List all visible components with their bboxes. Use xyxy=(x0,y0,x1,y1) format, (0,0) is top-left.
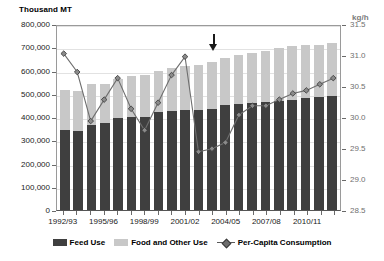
per-capita-data-point xyxy=(330,75,336,81)
chart-figure: Thousand MT kg/h 0100,000200,000300,0004… xyxy=(0,0,384,261)
per-capita-line-series xyxy=(57,26,340,210)
legend-swatch-feed-use xyxy=(53,239,67,246)
y-axis-right-tick-label: 31.5 xyxy=(350,20,366,29)
per-capita-data-point xyxy=(223,140,229,146)
legend-diamond-marker xyxy=(222,238,232,248)
y-axis-left-tick-label: 500,000 xyxy=(2,90,50,99)
x-axis-tick-mark xyxy=(76,211,77,215)
y-axis-right-tick-label: 29.5 xyxy=(350,144,366,153)
x-axis-tick-mark xyxy=(226,211,227,215)
per-capita-data-point xyxy=(290,91,296,97)
y-axis-left-tick-label: 700,000 xyxy=(2,43,50,52)
legend-item: Feed Use xyxy=(53,238,106,247)
y-axis-left-tick-label: 200,000 xyxy=(2,160,50,169)
y-axis-left-tick-label: 600,000 xyxy=(2,67,50,76)
x-axis-tick-mark xyxy=(199,211,200,215)
y-axis-left-tick-label: 400,000 xyxy=(2,113,50,122)
legend-swatch-food-and-other-use xyxy=(114,239,128,246)
x-axis-tick-mark xyxy=(266,211,267,215)
x-axis-tick-mark xyxy=(321,211,322,215)
per-capita-data-point xyxy=(128,106,134,112)
x-axis-tick-mark xyxy=(158,211,159,215)
y-axis-right-tick-mark xyxy=(342,149,346,150)
per-capita-data-point xyxy=(263,103,269,109)
y-axis-right-tick-label: 30.5 xyxy=(350,82,366,91)
y-axis-left-tick-label: 0 xyxy=(2,206,50,215)
y-axis-right-tick-mark xyxy=(342,87,346,88)
y-axis-right-tick-label: 30.0 xyxy=(350,113,366,122)
y-axis-right-tick-mark xyxy=(342,56,346,57)
y-axis-right-tick-label: 31.0 xyxy=(350,51,366,60)
y-axis-right-tick-label: 28.5 xyxy=(350,206,366,215)
x-axis-tick-mark xyxy=(104,211,105,215)
legend-swatch-per-capita-consumption xyxy=(217,239,235,246)
y-axis-right-tick-mark xyxy=(342,25,346,26)
per-capita-data-point xyxy=(115,75,121,81)
x-axis-tick-mark xyxy=(185,211,186,215)
x-axis-tick-mark xyxy=(171,211,172,215)
legend-item: Food and Other Use xyxy=(114,238,207,247)
y-axis-left-tick-label: 100,000 xyxy=(2,183,50,192)
arrow-head xyxy=(209,44,217,51)
legend-label: Feed Use xyxy=(70,238,106,247)
legend-item: Per-Capita Consumption xyxy=(217,238,332,247)
per-capita-data-point xyxy=(88,118,94,124)
left-axis-title: Thousand MT xyxy=(19,5,72,14)
x-axis-tick-mark xyxy=(239,211,240,215)
per-capita-data-point xyxy=(196,149,202,155)
x-axis-tick-mark xyxy=(90,211,91,215)
x-axis-tick-mark xyxy=(253,211,254,215)
plot-area xyxy=(56,25,341,211)
y-axis-left-tick-label: 300,000 xyxy=(2,136,50,145)
per-capita-data-point xyxy=(277,97,283,103)
y-axis-right-tick-label: 29.0 xyxy=(350,175,366,184)
x-axis-tick-mark xyxy=(63,211,64,215)
x-axis-tick-label: 2010/11 xyxy=(280,217,334,226)
per-capita-data-point xyxy=(155,100,161,106)
down-arrow-annotation-icon xyxy=(209,34,218,51)
y-axis-right-tick-mark xyxy=(342,211,346,212)
x-axis-tick-mark xyxy=(307,211,308,215)
x-axis-tick-mark xyxy=(280,211,281,215)
per-capita-data-point xyxy=(142,127,148,133)
x-axis-tick-mark xyxy=(117,211,118,215)
per-capita-data-point xyxy=(209,146,215,152)
x-axis-tick-mark xyxy=(131,211,132,215)
y-axis-left-tick-label: 800,000 xyxy=(2,20,50,29)
per-capita-data-point xyxy=(317,81,323,87)
y-axis-right-tick-mark xyxy=(342,118,346,119)
x-axis-tick-mark xyxy=(294,211,295,215)
legend-label: Food and Other Use xyxy=(131,238,207,247)
x-axis-tick-mark xyxy=(212,211,213,215)
per-capita-data-point xyxy=(304,88,310,94)
chart-legend: Feed UseFood and Other UsePer-Capita Con… xyxy=(0,238,384,247)
y-axis-right-tick-mark xyxy=(342,180,346,181)
legend-label: Per-Capita Consumption xyxy=(238,238,332,247)
per-capita-data-point xyxy=(101,97,107,103)
y-axis-left-tick-mark xyxy=(52,211,56,212)
x-axis-tick-mark xyxy=(144,211,145,215)
x-axis-tick-mark xyxy=(334,211,335,215)
